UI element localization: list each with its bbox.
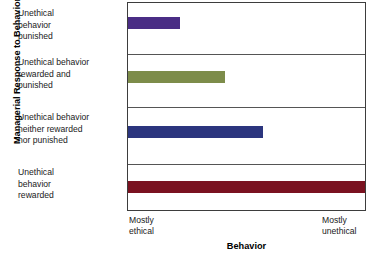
category-label-line: behavior xyxy=(18,20,122,32)
category-label-line: Unethical behavior xyxy=(18,57,122,69)
bar-punished xyxy=(128,17,180,29)
x-tick-label-line: Mostly xyxy=(322,215,356,226)
category-label-line: punished xyxy=(18,31,122,43)
x-tick-label-left: Mostly ethical xyxy=(129,215,154,238)
category-label-line: neither rewarded xyxy=(18,124,122,136)
category-label-rewarded: Unethical behavior rewarded xyxy=(18,167,122,202)
category-label-line: Unethical xyxy=(18,8,122,20)
bar-fill xyxy=(128,181,365,193)
category-label-line: rewarded and xyxy=(18,69,122,81)
x-tick-label-line: unethical xyxy=(322,226,356,237)
bar-neither-rewarded-nor-punished xyxy=(128,126,263,138)
category-label-neither-rewarded-nor-punished: Unethical behavior neither rewarded nor … xyxy=(18,112,122,147)
category-label-punished: Unethical behavior punished xyxy=(18,8,122,43)
bar-rewarded-and-punished xyxy=(128,71,225,83)
x-tick-label-line: Mostly xyxy=(129,215,154,226)
bar-fill xyxy=(128,71,225,83)
category-label-line: behavior xyxy=(18,179,122,191)
bar-fill xyxy=(128,126,263,138)
category-label-column: Unethical behavior punished Unethical be… xyxy=(18,2,122,211)
category-label-rewarded-and-punished: Unethical behavior rewarded and punished xyxy=(18,57,122,92)
category-label-line: Unethical xyxy=(18,167,122,179)
row-divider xyxy=(128,54,365,55)
row-divider xyxy=(128,107,365,108)
x-tick-label-right: Mostly unethical xyxy=(322,215,356,238)
plot-area xyxy=(127,2,366,211)
bar-rewarded xyxy=(128,181,365,193)
x-axis-title: Behavior xyxy=(127,241,366,251)
x-tick-label-line: ethical xyxy=(129,226,154,237)
category-label-line: punished xyxy=(18,80,122,92)
bar-fill xyxy=(128,17,180,29)
category-label-line: rewarded xyxy=(18,190,122,202)
category-label-line: nor punished xyxy=(18,135,122,147)
row-divider xyxy=(128,164,365,165)
category-label-line: Unethical behavior xyxy=(18,112,122,124)
